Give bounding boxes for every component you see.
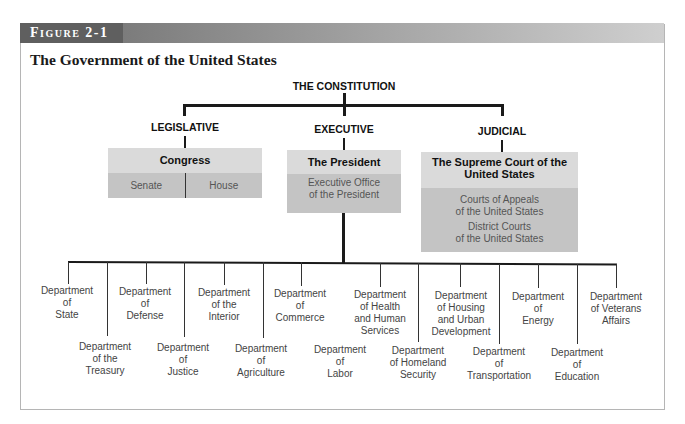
tick-justice	[184, 262, 185, 337]
tick-energy	[538, 264, 539, 288]
dept-homeland: Department of Homeland Security	[390, 345, 447, 381]
executive-office-label: Executive Office of the President	[287, 174, 401, 213]
district-courts-label: District Courts of the United States	[421, 221, 578, 244]
dept-state: Department of State	[41, 285, 93, 321]
tick-veterans	[616, 264, 617, 288]
tick-treasury	[107, 262, 108, 336]
tick-state	[68, 262, 69, 284]
congress-chambers: Senate House	[108, 173, 262, 198]
tick-homeland	[418, 263, 419, 342]
connector-legislative	[183, 104, 186, 116]
dept-health: Department of Health and Human Services	[354, 289, 406, 337]
tick-education	[577, 264, 578, 344]
dept-agriculture: Department of Agriculture	[235, 343, 287, 379]
congress-box: Congress Senate House	[108, 148, 262, 198]
connector-congress	[184, 136, 186, 148]
dept-commerce: Department of Commerce	[274, 288, 326, 324]
lower-courts: Courts of Appeals of the United States D…	[421, 188, 578, 252]
supreme-court-box: The Supreme Court of the United States C…	[421, 152, 578, 252]
figure-title: The Government of the United States	[30, 51, 277, 69]
tick-housing	[460, 263, 461, 287]
dept-housing: Department of Housing and Urban Developm…	[432, 290, 491, 338]
president-box: The President Executive Office of the Pr…	[287, 150, 401, 213]
connector-president	[343, 138, 345, 150]
house-label: House	[186, 173, 263, 198]
legislative-heading: LEGISLATIVE	[151, 121, 219, 133]
constitution-label: THE CONSTITUTION	[293, 80, 396, 92]
congress-title: Congress	[108, 148, 262, 173]
senate-label: Senate	[108, 173, 185, 198]
dept-energy: Department of Energy	[512, 291, 564, 327]
dept-veterans: Department of Veterans Affairs	[590, 291, 642, 327]
connector-judicial	[501, 104, 504, 116]
judicial-heading: JUDICIAL	[478, 125, 526, 137]
tick-agriculture	[263, 262, 264, 338]
dept-treasury: Department of the Treasury	[79, 341, 131, 377]
connector-executive	[343, 104, 346, 116]
dept-labor: Department of Labor	[314, 344, 366, 380]
dept-education: Department of Education	[551, 347, 603, 383]
executive-heading: EXECUTIVE	[314, 123, 374, 135]
courts-of-appeals-label: Courts of Appeals of the United States	[421, 194, 578, 217]
president-title: The President	[287, 150, 401, 174]
tick-defense	[146, 262, 147, 284]
dept-interior: Department of the Interior	[198, 287, 250, 323]
tick-interior	[224, 262, 225, 285]
connector-departments	[342, 213, 345, 263]
tick-commerce	[301, 262, 302, 286]
dept-justice: Department of Justice	[157, 342, 209, 378]
dept-transportation: Department of Transportation	[467, 346, 531, 382]
tick-health	[380, 263, 381, 287]
connector-supreme-court	[501, 140, 503, 152]
figure-label: Figure 2-1	[30, 25, 109, 41]
tick-transportation	[499, 264, 500, 344]
dept-defense: Department of Defense	[119, 286, 171, 322]
supreme-court-title: The Supreme Court of the United States	[421, 152, 578, 188]
